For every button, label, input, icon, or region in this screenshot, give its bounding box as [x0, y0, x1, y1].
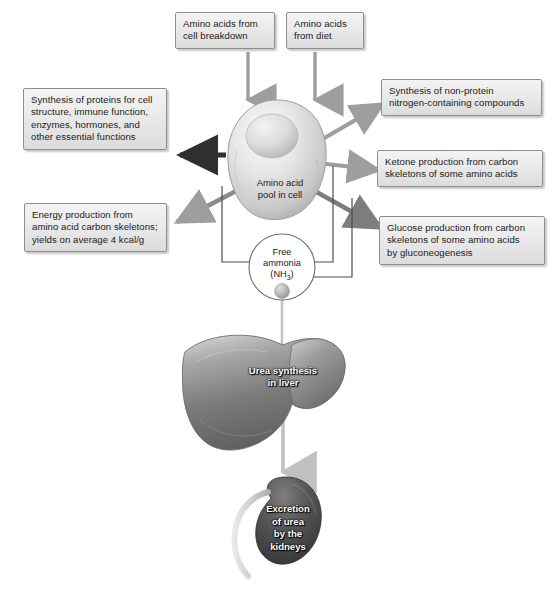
- output-box-glucose-production[interactable]: Glucose production from carbon skeletons…: [379, 216, 545, 265]
- free-ammonia-label: Free ammonia (NH3): [246, 247, 318, 283]
- ammonia-molecule-blob: [275, 284, 290, 299]
- output-line-1: Glucose production from carbon: [387, 222, 537, 234]
- output-box-non-protein-nitrogen[interactable]: Synthesis of non-protein nitrogen-contai…: [381, 79, 542, 116]
- input-line-1: Amino acids from: [183, 18, 267, 30]
- output-line-3: enzymes, hormones, and: [31, 119, 159, 131]
- amino-acid-pool-cell-illustration: [228, 100, 326, 220]
- input-line-2: from diet: [294, 30, 356, 42]
- output-line-2: nitrogen-containing compounds: [389, 97, 534, 109]
- output-line-1: Energy production from: [32, 209, 159, 221]
- output-line-2: skeletons of some amino acids: [385, 168, 535, 180]
- cell-label-line-2: pool in cell: [228, 189, 332, 201]
- output-line-3: yields on average 4 kcal/g: [32, 234, 159, 246]
- ammonia-formula-prefix: (NH: [270, 269, 286, 279]
- output-box-protein-synthesis[interactable]: Synthesis of proteins for cell structure…: [23, 88, 167, 150]
- ammonia-line-2: ammonia: [246, 258, 318, 269]
- output-line-4: other essential functions: [31, 131, 159, 143]
- output-box-ketone-production[interactable]: Ketone production from carbon skeletons …: [377, 150, 543, 187]
- cell-nucleus: [246, 114, 298, 158]
- liver-illustration: [182, 335, 345, 450]
- output-box-energy-production[interactable]: Energy production from amino acid carbon…: [24, 203, 167, 252]
- ammonia-formula-suffix: ): [291, 269, 294, 279]
- output-line-2: amino acid carbon skeletons;: [32, 221, 159, 233]
- arrow-pool-to-nonprotein: [321, 104, 383, 140]
- output-line-1: Ketone production from carbon: [385, 156, 535, 168]
- ammonia-line-1: Free: [246, 247, 318, 258]
- output-line-1: Synthesis of non-protein: [389, 85, 534, 97]
- figure-canvas: Amino acids from cell breakdown Amino ac…: [0, 0, 554, 603]
- input-line-2: cell breakdown: [183, 30, 267, 42]
- cell-label-line-1: Amino acid: [228, 177, 332, 189]
- arrow-pool-to-ketone: [318, 163, 379, 170]
- input-box-amino-acids-diet[interactable]: Amino acids from diet: [286, 12, 364, 49]
- ammonia-formula: (NH3): [246, 269, 318, 283]
- amino-acid-pool-label: Amino acid pool in cell: [228, 177, 332, 200]
- output-line-2: skeletons of some amino acids: [387, 234, 537, 246]
- output-line-1: Synthesis of proteins for cell: [31, 94, 159, 106]
- output-line-3: by gluconeogenesis: [387, 247, 537, 259]
- input-box-amino-acids-cell-breakdown[interactable]: Amino acids from cell breakdown: [175, 12, 275, 49]
- kidney-illustration: [235, 477, 322, 576]
- output-line-2: structure, immune function,: [31, 106, 159, 118]
- input-line-1: Amino acids: [294, 18, 356, 30]
